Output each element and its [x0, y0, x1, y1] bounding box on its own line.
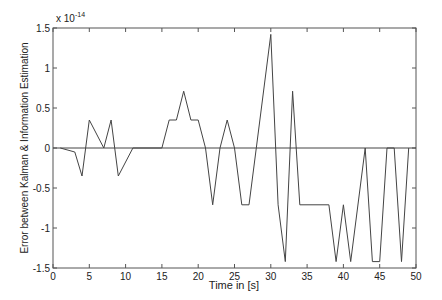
y-tick-label: -0.5 — [33, 183, 51, 194]
line-chart: 05101520253035404550-1.5-1-0.500.511.5 x… — [0, 0, 442, 300]
x-axis-label: Time in [s] — [209, 279, 259, 291]
plot-area: 05101520253035404550-1.5-1-0.500.511.5 — [33, 23, 422, 282]
x-tick-label: 30 — [265, 271, 277, 282]
x-tick-label: 50 — [410, 271, 422, 282]
y-tick-label: -1 — [41, 223, 50, 234]
x-tick-label: 0 — [50, 271, 56, 282]
y-multiplier-label: x 10-14 — [56, 11, 85, 24]
y-tick-label: 1 — [44, 63, 50, 74]
y-tick-label: 1.5 — [36, 23, 50, 34]
x-tick-label: 20 — [193, 271, 205, 282]
x-tick-label: 35 — [302, 271, 314, 282]
x-tick-label: 5 — [87, 271, 93, 282]
y-tick-label: -1.5 — [33, 263, 51, 274]
x-tick-label: 15 — [156, 271, 168, 282]
y-tick-label: 0.5 — [36, 103, 50, 114]
y-axis-label: Error between Kalman & Information Estim… — [19, 42, 30, 253]
y-tick-label: 0 — [44, 143, 50, 154]
x-tick-label: 10 — [120, 271, 132, 282]
x-tick-label: 40 — [338, 271, 350, 282]
x-tick-label: 45 — [374, 271, 386, 282]
